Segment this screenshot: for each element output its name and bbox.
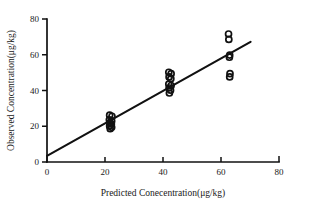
x-tick-label: 40 (159, 167, 169, 177)
x-tick-label: 20 (101, 167, 111, 177)
scatter-plot-figure: 020406080020406080Predicted Conecentrati… (0, 0, 310, 213)
x-tick-label: 80 (275, 167, 285, 177)
y-tick-label: 40 (30, 86, 40, 96)
x-tick-label: 0 (45, 167, 50, 177)
y-tick-label: 0 (35, 157, 40, 167)
y-tick-label: 20 (30, 121, 40, 131)
x-axis-title: Predicted Conecentration(μg/kg) (101, 188, 226, 199)
y-axis-title: Observed Concentration(μg/kg) (6, 30, 17, 151)
y-tick-label: 80 (30, 14, 40, 24)
y-tick-label: 60 (30, 50, 40, 60)
x-tick-label: 60 (217, 167, 227, 177)
regression-line (47, 42, 251, 156)
plot-canvas: 020406080020406080Predicted Conecentrati… (0, 0, 310, 213)
